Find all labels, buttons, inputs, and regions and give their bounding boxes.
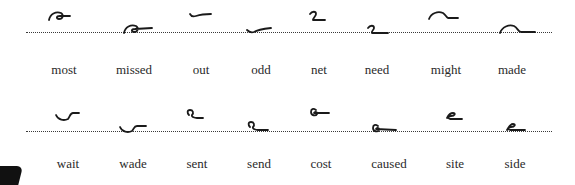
outline-odd [247, 28, 271, 32]
word-label: caused [371, 156, 406, 172]
word-label: cost [311, 156, 332, 172]
outline-site [447, 113, 462, 119]
outline-out [190, 14, 211, 16]
outline-might [429, 12, 458, 19]
outline-send [249, 122, 268, 130]
outline-sent [188, 110, 203, 118]
outline-wait [56, 113, 79, 120]
word-label: send [247, 156, 271, 172]
word-label: missed [116, 62, 152, 78]
word-label: made [498, 62, 526, 78]
word-label: net [311, 62, 327, 78]
outline-caused [373, 125, 396, 131]
outline-missed [124, 25, 152, 33]
outline-cost [311, 109, 329, 115]
word-label: most [51, 62, 76, 78]
word-label: sent [187, 156, 208, 172]
outline-made [500, 25, 535, 33]
outline-net [310, 12, 325, 20]
outline-most [49, 12, 70, 20]
word-label: wait [57, 156, 79, 172]
outline-side [507, 124, 525, 130]
word-label: side [505, 156, 526, 172]
outline-wade [120, 126, 146, 132]
word-label: wade [119, 156, 146, 172]
shorthand-outlines [0, 0, 575, 185]
word-label: out [193, 62, 210, 78]
word-label: need [365, 62, 390, 78]
word-label: site [446, 156, 464, 172]
word-label: odd [251, 62, 271, 78]
word-label: might [431, 62, 461, 78]
outline-need [368, 26, 388, 33]
